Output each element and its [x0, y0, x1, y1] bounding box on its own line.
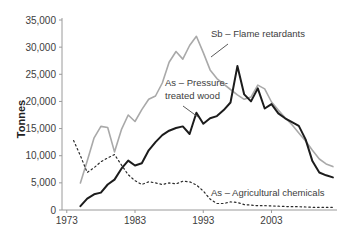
figure: 05,00010,00015,00020,00025,00030,00035,0…: [0, 0, 346, 239]
y-tick-label: 0: [50, 205, 56, 216]
y-tick-label: 20,000: [25, 96, 56, 107]
annotation-label-as-pressure-treated-wood: As – Pressure-: [165, 77, 228, 88]
y-tick-label: 35,000: [25, 15, 56, 26]
series-group: [74, 36, 333, 207]
annotation-label-as-agricultural-chemicals: As – Agricultural chemicals: [211, 187, 325, 198]
x-tick-label: 1993: [192, 215, 215, 226]
line-chart: 05,00010,00015,00020,00025,00030,00035,0…: [0, 0, 346, 239]
annotation-label-sb-flame-retardants: Sb – Flame retardants: [211, 28, 305, 39]
x-tick-label: 1973: [56, 215, 79, 226]
annotation-label-as-pressure-treated-wood: treated wood: [165, 90, 220, 101]
x-tick-label: 2003: [260, 215, 283, 226]
y-tick-label: 30,000: [25, 42, 56, 53]
annotations-group: Sb – Flame retardantsAs – Pressure-treat…: [165, 28, 325, 198]
annotation-leader-sb-flame-retardants: [211, 44, 228, 57]
y-tick-label: 25,000: [25, 69, 56, 80]
y-tick-label: 15,000: [25, 123, 56, 134]
y-tick-label: 5,000: [31, 177, 56, 188]
x-tick-label: 1983: [124, 215, 147, 226]
annotation-leader-as-pressure-treated-wood: [183, 106, 198, 117]
y-axis-title: Tonnes: [15, 100, 27, 138]
y-tick-label: 10,000: [25, 150, 56, 161]
